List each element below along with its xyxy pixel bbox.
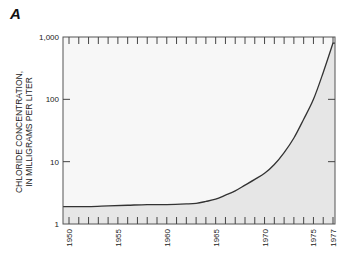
x-tick-label: 1965 <box>212 228 221 246</box>
x-tick-label: 1970 <box>261 228 270 246</box>
x-tick-label: 1977 <box>329 228 338 246</box>
chart-plot: 1101001,0001950195519601965197019751977 <box>0 0 354 260</box>
x-tick-label: 1975 <box>309 228 318 246</box>
y-tick-label: 1,000 <box>39 33 60 42</box>
x-tick-label: 1960 <box>163 228 172 246</box>
y-tick-label: 1 <box>55 220 60 229</box>
y-tick-label: 10 <box>50 158 59 167</box>
y-tick-label: 100 <box>46 95 60 104</box>
x-tick-label: 1955 <box>114 228 123 246</box>
x-tick-label: 1950 <box>65 228 74 246</box>
